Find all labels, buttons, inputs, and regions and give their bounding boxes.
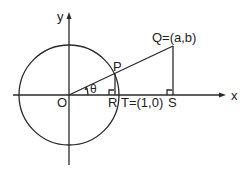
y-axis-arrow-icon [67,12,72,19]
x-axis-label: x [231,88,238,103]
point-p-label: P [113,59,122,74]
unit-circle-diagram: y x O P Q=(a,b) R T=(1,0) S θ [0,0,242,169]
angle-theta-label: θ [90,82,97,96]
point-o-label: O [57,95,67,110]
point-t-label: T=(1,0) [121,95,163,110]
point-s-label: S [168,95,177,110]
point-r-label: R [108,95,117,110]
point-q-label: Q=(a,b) [152,30,196,45]
y-axis-label: y [57,9,64,24]
x-axis-arrow-icon [219,93,226,98]
